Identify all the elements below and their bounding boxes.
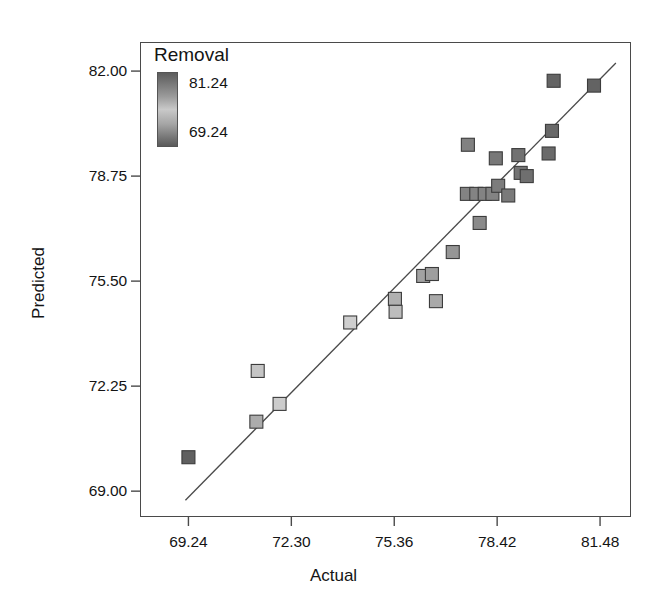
x-axis-tick-label: 78.42 [478, 533, 516, 551]
y-axis-tick-label: 78.75 [65, 167, 127, 185]
legend-min-label: 69.24 [189, 123, 228, 141]
legend-title: Removal [154, 44, 229, 66]
legend-colorbar-gradient [157, 72, 178, 147]
y-axis-tick-label: 69.00 [65, 482, 127, 500]
x-axis-tick-label: 75.36 [375, 533, 413, 551]
y-axis-tick-label: 75.50 [65, 272, 127, 290]
x-axis-tick-label: 72.30 [272, 533, 310, 551]
x-axis-tick-label: 81.48 [581, 533, 619, 551]
x-axis-title: Actual [0, 566, 667, 586]
y-axis-tick-label: 82.00 [65, 62, 127, 80]
legend: Removal 81.24 69.24 [152, 44, 302, 149]
y-axis-title: Predicted [29, 173, 49, 393]
x-axis-tick-label: 69.24 [169, 533, 207, 551]
scatter-chart: 82.0078.7575.5072.2569.00 69.2472.3075.3… [0, 0, 667, 613]
y-axis-tick-label: 72.25 [65, 377, 127, 395]
legend-max-label: 81.24 [189, 74, 228, 92]
